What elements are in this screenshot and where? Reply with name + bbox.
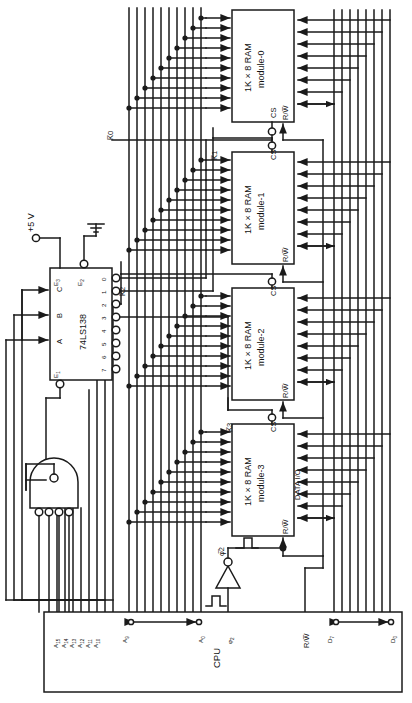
decoder-output-3-label: 3: [100, 316, 107, 320]
ram-module-3-data-lines: [298, 434, 390, 518]
decoder-input-b-label: B: [55, 313, 64, 318]
decoder-enable-e2: [80, 224, 96, 268]
rw-bus: [305, 556, 323, 612]
ram-module-1-address-inputs: [129, 160, 230, 250]
ram-module-2-line1: 1K × 8 RAM: [243, 321, 253, 370]
ram-module-0-address-inputs: [129, 18, 230, 108]
ram-module-1-data-lines: [298, 162, 390, 246]
ram-module-1-line2: module-1: [256, 192, 266, 230]
ram-module-1-line1: 1K × 8 RAM: [243, 185, 253, 234]
cpu-block[interactable]: [44, 612, 402, 692]
ram-module-3-line1: 1K × 8 RAM: [243, 457, 253, 506]
nand-gate-input-bubbles: [35, 508, 73, 516]
ram-module-2-cs-pin: [121, 262, 276, 288]
ram-module-0-rw-label: R/W̅: [281, 105, 290, 121]
decoder-input-a-label: A: [55, 339, 64, 344]
ram-module-3-cs-pin: [228, 398, 276, 424]
ram-module-2-data-lines: [298, 298, 390, 382]
clock-waveform-output-icon: [236, 538, 258, 548]
decoder-output-3-net: [120, 317, 228, 410]
ram-module-2-rw-label: R/W̅: [281, 383, 290, 399]
ram-module-0-line2: module-0: [256, 50, 266, 88]
ram-module-3-address-inputs: [129, 432, 230, 522]
clock-net-junction: [280, 545, 287, 552]
ram-module-3-rw-label: R/W̅: [281, 519, 290, 535]
ram-module-1-rw-label: R/W̅: [281, 247, 290, 263]
nand-gate[interactable]: [26, 458, 78, 508]
decoder-enable-e3: [32, 234, 60, 268]
ram-module-3-rw-pin: [283, 538, 323, 556]
ram-module-1-rw-pin: [283, 266, 323, 282]
cpu-label: CPU: [211, 648, 222, 668]
decoder-part-label: 74LS138: [78, 314, 88, 350]
decoder-output-6-label: 6: [100, 355, 107, 359]
ram-module-2-junctions: [126, 293, 203, 388]
decoder-output-4-label: 4: [100, 329, 107, 333]
clock-waveform-input-icon: [206, 596, 226, 606]
ram-module-3-cs-label: CS: [269, 422, 278, 432]
ram-module-1-junctions: [126, 157, 203, 252]
data-io-label: DATA I/O: [293, 469, 302, 500]
ram-module-1-cs-label: CS: [269, 150, 278, 160]
ram-module-2-select-label: K̅2: [118, 287, 127, 297]
ram-module-0-line1: 1K × 8 RAM: [243, 43, 253, 92]
ram-module-2-cs-label: CS: [269, 286, 278, 296]
decoder-output-0-label: 0: [100, 277, 107, 281]
ram-module-0-cs-label: CS: [269, 108, 278, 118]
ram-module-3-line2: module-3: [256, 464, 266, 502]
ram-module-2-address-inputs: [129, 296, 230, 386]
decoder-output-1-label: 1: [100, 290, 107, 294]
ram-module-1-select-label: K̅1: [210, 151, 219, 161]
decoder-output-7-label: 7: [100, 368, 107, 372]
data-bus-trunks: [334, 10, 390, 612]
ram-module-2-line2: module-2: [256, 328, 266, 366]
ram-module-2-rw-pin: [283, 402, 323, 418]
cpu-pin-rw: R/W̅: [302, 633, 311, 649]
ram-module-3-select-label: K̅3: [225, 423, 234, 433]
decoder-output-5-label: 5: [100, 342, 107, 346]
circuit-diagram-canvas: 1K × 8 RAM module-0 CS R/W̅ K̅0 1K × 8 R…: [0, 0, 412, 703]
ram-module-0-data-lines: [298, 20, 390, 104]
supply-label: +5 V: [26, 213, 36, 232]
ram-module-0-junctions: [126, 15, 203, 110]
inverted-clock-label: φ̅2: [217, 547, 226, 556]
memory-interface-schematic: 1K × 8 RAM module-0 CS R/W̅ K̅0 1K × 8 R…: [0, 0, 412, 703]
decoder-output-2-label: 2: [100, 303, 107, 307]
ram-module-0-select-label: K̅0: [106, 131, 115, 141]
ram-module-3-junctions: [126, 429, 203, 524]
